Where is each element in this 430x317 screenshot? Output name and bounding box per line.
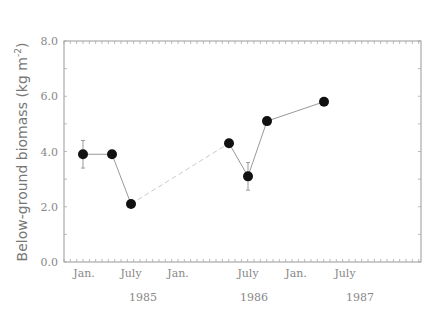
data-point: [224, 138, 234, 148]
data-point: [319, 97, 329, 107]
x-tick-label: Jan.: [72, 267, 95, 280]
plot-frame: [64, 41, 421, 262]
year-labels: 198519861987: [129, 291, 374, 304]
year-label: 1985: [129, 291, 157, 304]
data-point: [262, 116, 272, 126]
y-tick-label: 2.0: [41, 201, 59, 214]
y-tick-label: 0.0: [41, 256, 59, 269]
year-label: 1986: [240, 291, 268, 304]
series-lines: [83, 102, 324, 204]
data-points: [78, 97, 329, 209]
figure-caption-cutoff: [0, 306, 430, 317]
chart: 0.02.04.06.08.0 Jan.JulyJan.JulyJan.July…: [0, 0, 430, 317]
data-point: [126, 199, 136, 209]
x-tick-label: July: [119, 267, 142, 280]
data-point: [107, 149, 117, 159]
y-ticks: [64, 41, 421, 262]
x-tick-label: Jan.: [284, 267, 307, 280]
x-tick-label: July: [236, 267, 259, 280]
y-tick-label: 6.0: [41, 90, 59, 103]
y-axis-title: Below-ground biomass (kg m-2): [13, 43, 30, 262]
y-tick-labels: 0.02.04.06.08.0: [41, 35, 59, 269]
x-minor-ticks: [64, 41, 419, 262]
x-tick-label: July: [333, 267, 356, 280]
x-tick-label: Jan.: [166, 267, 189, 280]
y-tick-label: 4.0: [41, 146, 59, 159]
data-point: [243, 171, 253, 181]
year-label: 1987: [346, 291, 374, 304]
y-tick-label: 8.0: [41, 35, 59, 48]
data-point: [78, 149, 88, 159]
x-tick-labels: Jan.JulyJan.JulyJan.July: [72, 267, 356, 280]
